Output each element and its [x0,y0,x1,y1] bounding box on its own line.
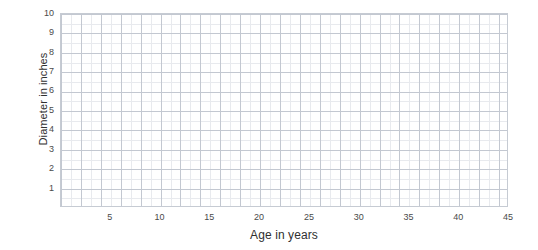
y-tick-label: 10 [40,8,54,18]
x-tick-label: 30 [349,212,369,222]
y-tick-label: 5 [40,105,54,115]
plot-area [60,13,508,207]
x-tick-label: 15 [199,212,219,222]
y-tick-label: 6 [40,85,54,95]
y-tick-label: 9 [40,27,54,37]
y-tick-label: 3 [40,144,54,154]
chart-figure: Diameter in inches 10 9 8 7 6 5 4 3 2 1 … [0,0,538,250]
x-tick-label: 45 [498,212,518,222]
major-gridlines [61,14,507,206]
y-tick-label: 2 [40,163,54,173]
x-tick-label: 20 [249,212,269,222]
x-tick-label: 25 [299,212,319,222]
x-tick-label: 10 [150,212,170,222]
x-axis-title: Age in years [60,228,508,242]
y-tick-label: 8 [40,47,54,57]
x-tick-label: 5 [100,212,120,222]
x-tick-label: 40 [448,212,468,222]
y-tick-label: 4 [40,124,54,134]
x-tick-label: 35 [398,212,418,222]
y-axis-title: Diameter in inches [37,19,49,179]
y-tick-label: 1 [40,183,54,193]
y-tick-label: 7 [40,66,54,76]
